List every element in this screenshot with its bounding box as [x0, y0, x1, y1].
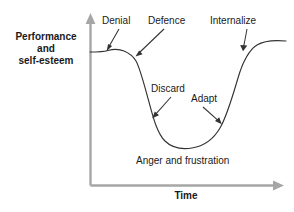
y-axis-arrowhead	[86, 13, 96, 24]
annotation-label-discard: Discard	[151, 84, 185, 95]
y-axis-label-line-3: self-esteem	[6, 55, 86, 67]
denial-leader-arrow	[107, 29, 119, 51]
y-axis-label-line-1: Performance	[6, 31, 86, 43]
internalize-leader-arrow	[240, 29, 247, 51]
defence-leader-arrow	[136, 29, 165, 56]
x-axis-arrowhead	[273, 181, 284, 191]
annotation-label-anger-and-frustration: Anger and frustration	[136, 156, 229, 167]
discard-leader-arrow	[152, 97, 171, 118]
y-axis-label: Performance and self-esteem	[6, 31, 86, 67]
adapt-leader-arrow	[203, 107, 222, 124]
y-axis-label-line-2: and	[6, 43, 86, 55]
annotation-label-denial: Denial	[102, 16, 130, 27]
diagram-canvas: Performance and self-esteem Time Denial …	[0, 0, 294, 212]
curve-path	[90, 40, 286, 148]
annotation-label-defence: Defence	[148, 16, 185, 27]
x-axis-label: Time	[156, 191, 216, 202]
performance-curve-group	[90, 40, 286, 148]
annotation-label-internalize: Internalize	[210, 16, 256, 27]
annotation-arrows-group	[107, 29, 248, 124]
annotation-label-adapt: Adapt	[191, 94, 217, 105]
